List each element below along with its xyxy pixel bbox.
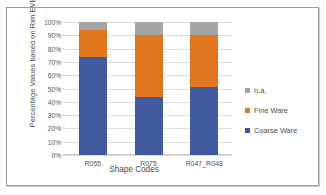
bar-segment-n-a[interactable] — [190, 22, 218, 35]
y-axis-tick-label: 10% — [48, 138, 61, 145]
y-axis-tickmark — [62, 35, 65, 36]
y-axis-tickmark — [62, 61, 65, 62]
bar-segment-fine-ware[interactable] — [190, 35, 218, 86]
y-axis-tick-label: 50% — [48, 85, 61, 92]
y-axis-tickmark — [62, 75, 65, 76]
y-axis-tickmark — [62, 141, 65, 142]
y-axis-tickmark — [62, 88, 65, 89]
legend-item[interactable]: Fine Ware — [245, 106, 297, 115]
legend-label: Fine Ware — [254, 106, 288, 115]
y-axis-tick-label: 100% — [44, 19, 61, 26]
legend-label: n.a. — [254, 86, 266, 95]
y-axis-tick-label: 90% — [48, 32, 61, 39]
y-axis-title: Percentage Values based on Rim EVEs — [28, 0, 37, 131]
legend-item[interactable]: n.a. — [245, 86, 297, 95]
bar-segment-fine-ware[interactable] — [135, 35, 163, 97]
bar-segment-n-a[interactable] — [79, 22, 107, 30]
y-axis-tickmark — [62, 101, 65, 102]
y-axis-tick-label: 80% — [48, 45, 61, 52]
x-axis-title: Shape Codes — [29, 165, 239, 174]
plot-area: 0%10%20%30%40%50%60%70%80%90%100%R055R07… — [65, 22, 232, 155]
bar-segment-coarse-ware[interactable] — [79, 57, 107, 155]
legend-label: Coarse Ware — [254, 126, 297, 135]
y-axis-tickmark — [62, 155, 65, 156]
bar-R055[interactable]: R055 — [79, 22, 107, 155]
gridline — [65, 155, 232, 156]
y-axis-tickmark — [62, 128, 65, 129]
bar-segment-n-a[interactable] — [135, 22, 163, 35]
legend-item[interactable]: Coarse Ware — [245, 126, 297, 135]
chart-screenshot: Percentage Values based on Rim EVEs 0%10… — [0, 0, 326, 195]
y-axis-tick-label: 30% — [48, 112, 61, 119]
bar-R075[interactable]: R075 — [135, 22, 163, 155]
y-axis-tickmark — [62, 115, 65, 116]
chart-legend: n.a.Fine WareCoarse Ware — [245, 86, 297, 135]
bar-R047_R048[interactable]: R047_R048 — [190, 22, 218, 155]
y-axis-tick-label: 40% — [48, 98, 61, 105]
y-axis-tick-label: 20% — [48, 125, 61, 132]
chart-container: Percentage Values based on Rim EVEs 0%10… — [6, 7, 319, 186]
y-axis-tickmark — [62, 22, 65, 23]
y-axis-tick-label: 0% — [51, 152, 61, 159]
bar-segment-coarse-ware[interactable] — [190, 87, 218, 155]
bar-segment-coarse-ware[interactable] — [135, 97, 163, 155]
y-axis-tick-label: 70% — [48, 58, 61, 65]
y-axis-tickmark — [62, 48, 65, 49]
legend-swatch-icon — [245, 88, 250, 93]
y-axis-tick-label: 60% — [48, 72, 61, 79]
legend-swatch-icon — [245, 128, 250, 133]
bar-segment-fine-ware[interactable] — [79, 30, 107, 57]
legend-swatch-icon — [245, 108, 250, 113]
